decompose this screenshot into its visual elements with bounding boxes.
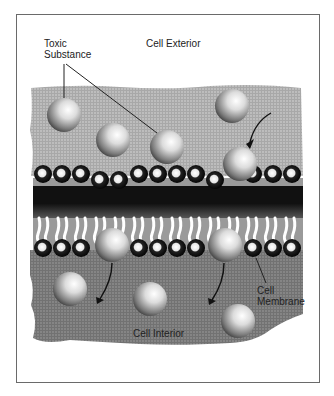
toxic-label-line1: Toxic <box>44 38 91 49</box>
membrane-label-line1: Cell <box>257 285 305 296</box>
sphere <box>223 147 257 181</box>
cell-membrane-label: Cell Membrane <box>257 285 305 307</box>
cell-exterior-label: Cell Exterior <box>146 38 200 49</box>
toxic-substance-label: Toxic Substance <box>44 38 91 60</box>
cell-interior-label: Cell Interior <box>133 328 184 339</box>
sphere <box>133 282 167 316</box>
sphere <box>215 89 249 123</box>
sphere <box>208 228 242 262</box>
sphere <box>95 228 129 262</box>
sphere <box>53 272 87 306</box>
toxic-label-line2: Substance <box>44 49 91 60</box>
sphere <box>47 98 81 132</box>
sphere <box>221 304 255 338</box>
membrane-label-line2: Membrane <box>257 296 305 307</box>
sphere <box>150 130 184 164</box>
sphere <box>96 123 130 157</box>
